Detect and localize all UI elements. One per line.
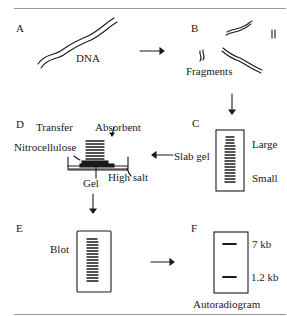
small-label: Small <box>252 172 278 184</box>
panel-label-f: F <box>191 222 197 234</box>
transfer-label: Transfer <box>36 121 73 133</box>
dna-label: DNA <box>76 52 100 64</box>
arrow-right-icon <box>151 259 174 265</box>
arrow-down-icon <box>90 194 96 213</box>
diagram-artwork <box>0 0 287 316</box>
slab-gel-label: Slab gel <box>174 150 210 162</box>
gel-bands <box>225 137 235 182</box>
autoradiogram-film-box <box>214 232 248 293</box>
panel-label-e: E <box>16 222 23 234</box>
panel-label-c: C <box>192 117 199 129</box>
panel-label-b: B <box>191 22 198 34</box>
arrow-right-icon <box>140 48 164 54</box>
gel-label: Gel <box>83 177 99 189</box>
absorbent-label: Absorbent <box>95 121 141 133</box>
1-2kb-label: 1.2 kb <box>251 271 279 283</box>
fragments-label: Fragments <box>186 65 232 77</box>
nitrocellulose-label: Nitrocellulose <box>14 141 76 153</box>
panel-label-d: D <box>16 118 24 130</box>
arrow-left-icon <box>152 152 173 158</box>
arrow-down-icon <box>229 94 235 114</box>
blot-bands <box>87 239 98 281</box>
high-salt-label: High salt <box>108 171 148 183</box>
blot-label: Blot <box>50 243 69 255</box>
large-label: Large <box>252 138 277 150</box>
7kb-label: 7 kb <box>252 238 271 250</box>
blot-membrane-box <box>77 231 111 292</box>
panel-label-a: A <box>16 22 24 34</box>
autoradiogram-label: Autoradiogram <box>193 298 260 310</box>
